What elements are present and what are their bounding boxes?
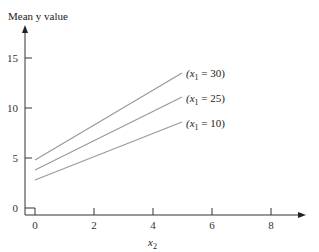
series-line-x1-30 — [35, 73, 182, 160]
series-line-x1-25 — [35, 97, 182, 170]
y-axis-arrow-icon — [22, 25, 28, 33]
x-tick-label: 6 — [209, 219, 215, 231]
series-line-x1-10 — [35, 122, 182, 180]
series-label: (x1 = 10) — [186, 117, 225, 132]
y-axis-label: Mean y value — [8, 10, 68, 22]
y-tick-label: 0 — [13, 202, 19, 214]
x-axis-arrow-icon — [298, 212, 306, 218]
x-tick-label: 8 — [268, 219, 274, 231]
y-tick-label: 5 — [13, 152, 19, 164]
y-tick-label: 10 — [7, 102, 19, 114]
x-tick-label: 0 — [32, 219, 38, 231]
x-tick-label: 4 — [150, 219, 156, 231]
chart: 0 5 10 15 0 2 4 6 8 Mean y value x2 (x1 … — [0, 0, 319, 252]
y-tick-label: 15 — [7, 52, 19, 64]
series-label: (x1 = 25) — [186, 92, 225, 107]
x-axis-label: x2 — [147, 236, 157, 251]
x-tick-label: 2 — [91, 219, 97, 231]
series-label: (x1 = 30) — [186, 67, 225, 82]
